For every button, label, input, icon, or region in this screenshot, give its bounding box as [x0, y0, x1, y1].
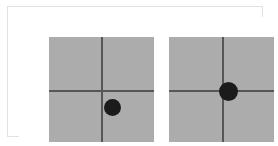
panel-right-marker-dot [219, 82, 238, 101]
panel-left-horizontal-axis [49, 90, 154, 92]
figure-outer-frame [7, 6, 263, 137]
panel-left-marker-dot [104, 99, 121, 116]
figure-inner-plate [19, 17, 267, 140]
figure-root [0, 0, 278, 146]
panel-left [49, 37, 154, 142]
panel-right [169, 37, 274, 142]
